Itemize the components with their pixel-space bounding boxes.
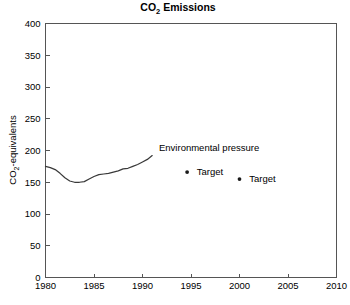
x-tick-label: 2010	[326, 280, 347, 291]
y-tick-label: 400	[25, 18, 41, 29]
target-marker-dot	[238, 177, 242, 181]
y-tick-label: 200	[25, 145, 41, 156]
target-label-2: Target	[249, 173, 276, 184]
y-tick-label: 50	[30, 240, 41, 251]
chart-annotations: Environmental pressureTargetTarget	[159, 142, 276, 185]
x-tick-label: 1990	[132, 280, 153, 291]
y-tick-label: 350	[25, 50, 41, 61]
target-label-1: Target	[197, 166, 224, 177]
y-axis-title: CO2-equivalents	[7, 115, 20, 185]
chart-title: CO2 Emissions	[140, 1, 216, 16]
x-tick-label: 2005	[277, 280, 298, 291]
chart-container: CO2 Emissions CO2-equivalents 0501001502…	[0, 0, 350, 305]
y-tick-label: 300	[25, 81, 41, 92]
x-tick-label: 1980	[35, 280, 56, 291]
co2-emissions-line-chart: CO2 Emissions CO2-equivalents 0501001502…	[0, 0, 350, 305]
y-tick-label: 150	[25, 177, 41, 188]
x-tick-label: 1985	[83, 280, 104, 291]
target-marker-dot	[185, 170, 189, 174]
y-tick-label: 100	[25, 208, 41, 219]
x-axis-ticks: 1980198519901995200020052010	[35, 274, 347, 291]
x-tick-label: 2000	[229, 280, 250, 291]
x-tick-label: 1995	[180, 280, 201, 291]
environmental-pressure-label: Environmental pressure	[159, 142, 259, 153]
series-environmental-pressure	[46, 156, 153, 183]
y-tick-label: 250	[25, 113, 41, 124]
